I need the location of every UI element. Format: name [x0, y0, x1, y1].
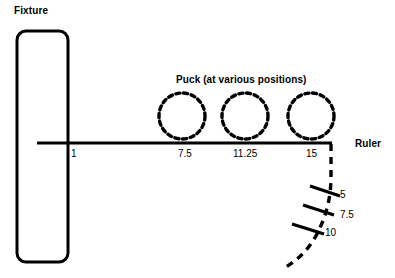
curve-tick-mark-5 — [310, 186, 340, 196]
puck-label: Puck (at various positions) — [176, 75, 307, 85]
ruler-tick-label-1: 1 — [71, 149, 77, 159]
fixture-shape — [17, 31, 68, 262]
curve-tick-label-5: 5 — [340, 190, 346, 200]
puck-circle-3 — [288, 93, 334, 139]
puck-circle-2 — [222, 93, 268, 139]
ruler-tick-label-15: 15 — [306, 149, 317, 159]
ruler-tick-label-7-5: 7.5 — [178, 149, 192, 159]
diagram-canvas: Fixture Puck (at various positions) Rule… — [0, 0, 395, 278]
puck-circle-1 — [159, 93, 205, 139]
curve-tick-label-10: 10 — [325, 228, 336, 238]
fixture-label: Fixture — [14, 6, 48, 16]
ruler-label: Ruler — [355, 139, 381, 149]
curve-tick-mark-7-5 — [303, 205, 334, 215]
curve-tick-label-7-5: 7.5 — [340, 210, 354, 220]
ruler-tick-label-11-25: 11.25 — [233, 149, 257, 159]
